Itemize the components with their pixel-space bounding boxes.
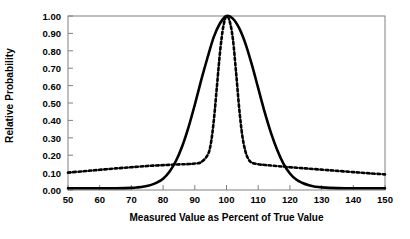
plot-area [0, 0, 410, 239]
axis-frame [68, 16, 385, 190]
x-axis-title: Measured Value as Percent of True Value [68, 212, 385, 223]
data-series-group [68, 16, 385, 188]
plot-frame [68, 16, 385, 190]
series-line-broad-distribution [68, 16, 385, 188]
chart-container: Relative Probability 0.000.100.200.300.4… [0, 0, 410, 239]
series-line-narrow-distribution [68, 16, 385, 175]
y-tick-marks [68, 16, 73, 190]
